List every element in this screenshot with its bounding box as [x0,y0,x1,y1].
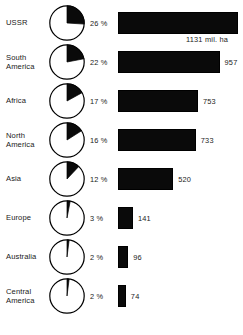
region-label: Australia [0,252,44,261]
region-label: USSR [0,18,44,27]
pie-chart [48,238,86,276]
region-label-line: USSR [6,18,44,27]
chart-row: SouthAmerica22 %957 [0,43,243,82]
region-label: SouthAmerica [0,53,44,72]
value-bar [118,207,133,229]
pie-wedge [67,45,84,62]
bar-value-label: 96 [133,253,142,262]
pie-chart [48,277,86,315]
chart-row: Europe3 %141 [0,199,243,238]
region-label: NorthAmerica [0,131,44,150]
percent-label: 16 % [90,136,108,145]
region-label: Europe [0,213,44,222]
region-label-line: North [6,131,44,140]
percent-label: 3 % [90,214,103,223]
value-bar [118,51,220,73]
region-label-line: Europe [6,213,44,222]
chart-row: CentralAmerica2 %74 [0,277,243,316]
region-label-line: America [6,62,44,71]
chart-row: NorthAmerica16 %733 [0,121,243,160]
value-bar [118,129,196,151]
bar-value-label: 74 [131,292,140,301]
percent-label: 12 % [90,175,108,184]
region-label-line: Africa [6,96,44,105]
region-label-line: Australia [6,252,44,261]
region-label: Africa [0,96,44,105]
bar-value-label: 957 [225,58,238,67]
bar-value-label: 141 [138,214,151,223]
value-bar [118,90,198,112]
pie-chart [48,43,86,81]
forest-area-figure: USSR26 %1131 mil. haSouthAmerica22 %957A… [0,0,243,335]
percent-label: 17 % [90,97,108,106]
value-bar [118,246,128,268]
percent-label: 2 % [90,253,103,262]
chart-row: Africa17 %753 [0,82,243,121]
chart-row: Australia2 %96 [0,238,243,277]
pie-chart [48,160,86,198]
bar-value-label: 520 [178,175,191,184]
bar-value-label: 753 [203,97,216,106]
value-bar [118,12,238,34]
percent-label: 2 % [90,292,103,301]
percent-label: 26 % [90,19,108,28]
region-label: CentralAmerica [0,287,44,306]
value-bar [118,168,173,190]
chart-row: USSR26 %1131 mil. ha [0,4,243,43]
region-label-line: South [6,53,44,62]
bar-value-label: 733 [201,136,214,145]
region-label-line: Asia [6,174,44,183]
region-label-line: America [6,140,44,149]
value-bar [118,285,126,307]
pie-chart [48,82,86,120]
region-label-line: America [6,296,44,305]
pie-wedge [67,6,84,24]
percent-label: 22 % [90,58,108,67]
region-label: Asia [0,174,44,183]
chart-row: Asia12 %520 [0,160,243,199]
pie-chart [48,121,86,159]
pie-chart [48,199,86,237]
region-label-line: Central [6,287,44,296]
pie-chart [48,4,86,42]
